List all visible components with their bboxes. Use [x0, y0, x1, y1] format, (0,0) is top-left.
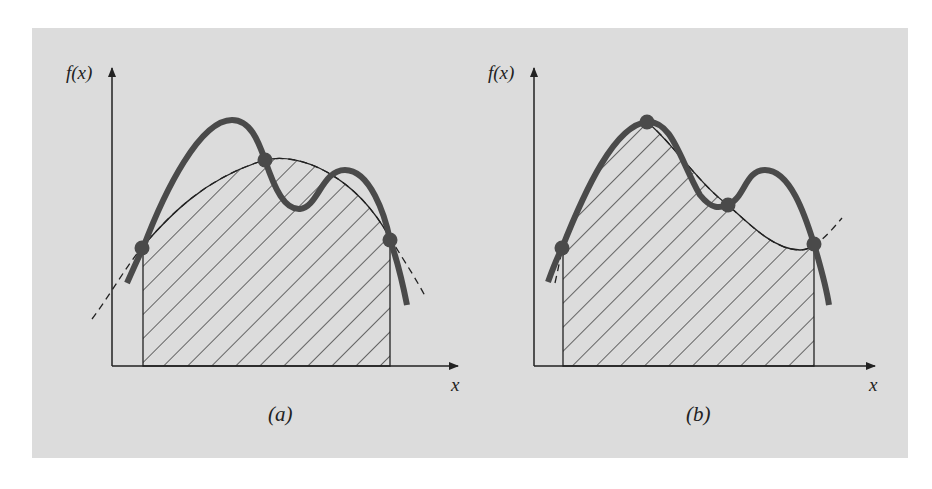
hatched-area-b: [563, 122, 814, 366]
x-axis-label-b: x: [869, 374, 877, 396]
sample-point-b4: [807, 237, 822, 252]
panel-b: [534, 68, 875, 366]
sample-point-a2: [258, 153, 273, 168]
caption-a: (a): [268, 402, 293, 427]
x-axis-label-a: x: [451, 374, 459, 396]
sample-point-a1: [135, 241, 150, 256]
sample-point-b3: [721, 198, 736, 213]
sample-point-a3: [383, 233, 398, 248]
sample-point-b2: [640, 115, 655, 130]
y-axis-label-b: f(x): [488, 62, 514, 84]
caption-b: (b): [686, 402, 711, 427]
y-axis-label-a: f(x): [66, 62, 92, 84]
sample-point-b1: [555, 241, 570, 256]
hatched-area-a: [143, 158, 390, 366]
panel-a: [92, 68, 458, 366]
figure-canvas: [0, 0, 932, 489]
